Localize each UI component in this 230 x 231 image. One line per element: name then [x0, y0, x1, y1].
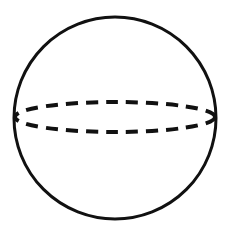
sphere-equator	[15, 102, 215, 132]
sphere-outline	[14, 17, 216, 219]
sphere-diagram	[0, 0, 230, 231]
